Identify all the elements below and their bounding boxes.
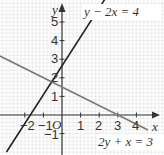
y-tick-1: 1 — [51, 89, 58, 104]
y-axis-arrow-icon — [59, 3, 66, 12]
x-tick-1: 1 — [77, 118, 84, 133]
y-tick-3: 3 — [51, 51, 58, 66]
x-tick-3: 3 — [114, 118, 121, 133]
x-axis-label: x — [151, 119, 158, 134]
x-tick-2: 2 — [95, 118, 102, 133]
y-tick-4: 4 — [51, 33, 58, 48]
x-tick-4: 4 — [132, 118, 139, 133]
y-tick-5: 5 — [51, 14, 58, 29]
y-tick-2: 2 — [51, 70, 58, 85]
graph: y x O 5 4 3 2 1 −1 −2 −1 1 2 3 4 y − 2x … — [0, 0, 164, 155]
equation-label-2: 2y + x = 3 — [98, 134, 154, 149]
x-tick-neg2: −2 — [20, 118, 35, 133]
x-tick-neg1: −1 — [38, 118, 53, 133]
equation-label-1: y − 2x = 4 — [82, 4, 140, 19]
